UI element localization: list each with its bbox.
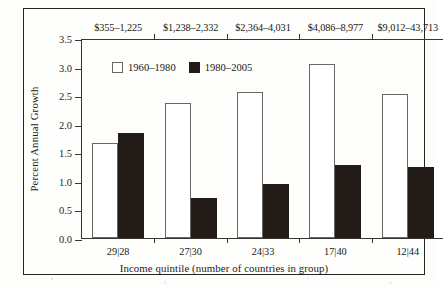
legend-swatch-black-icon bbox=[189, 62, 200, 73]
top-axis-tick bbox=[227, 34, 228, 40]
bar-1960-1980 bbox=[237, 92, 263, 238]
y-axis-tick-label: 2.5 bbox=[59, 92, 72, 103]
legend-label-1980-2005: 1980–2005 bbox=[205, 62, 253, 73]
y-axis-tick-label: 0.0 bbox=[59, 235, 72, 246]
scan-artifact bbox=[0, 274, 434, 287]
y-axis-tick-label: 3.5 bbox=[59, 35, 72, 46]
y-axis-tick-label: 1.0 bbox=[59, 178, 72, 189]
y-axis-tick bbox=[75, 183, 82, 184]
x-axis-category-label: 29|28 bbox=[107, 246, 130, 257]
y-axis-tick bbox=[75, 154, 82, 155]
bar-1980-2005 bbox=[408, 167, 434, 238]
bar-1960-1980 bbox=[92, 143, 118, 238]
top-axis-group-label: $355–1,225 bbox=[94, 22, 142, 33]
bar-1960-1980 bbox=[309, 64, 335, 238]
y-axis-tick bbox=[75, 40, 82, 41]
x-axis-category-label: 24|33 bbox=[252, 246, 275, 257]
top-axis-tick bbox=[372, 34, 373, 40]
y-axis-tick bbox=[75, 126, 82, 127]
bar-1980-2005 bbox=[118, 133, 144, 238]
y-axis-tick bbox=[75, 69, 82, 70]
x-axis-tick bbox=[372, 238, 373, 243]
top-axis-group-label: $1,238–2,332 bbox=[163, 22, 218, 33]
x-axis-tick bbox=[154, 238, 155, 243]
legend-item-1980-2005: 1980–2005 bbox=[189, 62, 253, 73]
y-axis-title: Percent Annual Growth bbox=[28, 86, 40, 191]
y-axis-tick-label: 0.5 bbox=[59, 206, 72, 217]
top-axis-group-label: $4,086–8,977 bbox=[308, 22, 363, 33]
y-axis-tick bbox=[75, 97, 82, 98]
legend-item-1960-1980: 1960–1980 bbox=[112, 62, 176, 73]
legend-swatch-white-icon bbox=[112, 62, 123, 73]
top-axis-group-label: $2,364–4,031 bbox=[235, 22, 290, 33]
y-axis-tick-label: 2.0 bbox=[59, 121, 72, 132]
x-axis-category-label: 17|40 bbox=[324, 246, 347, 257]
x-axis-tick bbox=[299, 238, 300, 243]
top-axis-group-label: $9,012–43,713 bbox=[378, 22, 438, 33]
figure-border: Percent Annual Growth 0.00.51.01.52.02.5… bbox=[23, 8, 425, 275]
bar-1960-1980 bbox=[165, 103, 191, 238]
chart-legend: 1960–1980 1980–2005 bbox=[112, 62, 252, 73]
y-axis-tick-label: 3.0 bbox=[59, 64, 72, 75]
x-axis-category-label: 27|30 bbox=[179, 246, 202, 257]
top-axis-tick bbox=[299, 34, 300, 40]
y-axis-tick bbox=[75, 211, 82, 212]
y-axis-tick-label: 1.5 bbox=[59, 149, 72, 160]
top-axis-tick bbox=[154, 34, 155, 40]
y-axis-tick bbox=[75, 240, 82, 241]
bar-1980-2005 bbox=[191, 198, 217, 238]
bar-1960-1980 bbox=[382, 94, 408, 238]
x-axis-tick bbox=[227, 238, 228, 243]
legend-label-1960-1980: 1960–1980 bbox=[128, 62, 176, 73]
bar-1980-2005 bbox=[263, 184, 289, 238]
plot-area: Percent Annual Growth 0.00.51.01.52.02.5… bbox=[81, 39, 443, 239]
x-axis-title: Income quintile (number of countries in … bbox=[24, 262, 424, 274]
bar-1980-2005 bbox=[335, 165, 361, 238]
x-axis-category-label: 12|44 bbox=[396, 246, 419, 257]
